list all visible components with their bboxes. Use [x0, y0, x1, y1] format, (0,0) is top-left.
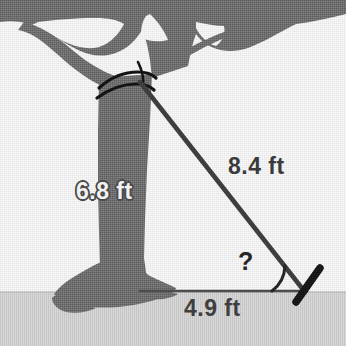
trunk [98, 74, 152, 284]
diagram-canvas [0, 0, 346, 346]
tree-guy-wire-diagram: 6.8 ft 8.4 ft 4.9 ft ? [0, 0, 346, 346]
